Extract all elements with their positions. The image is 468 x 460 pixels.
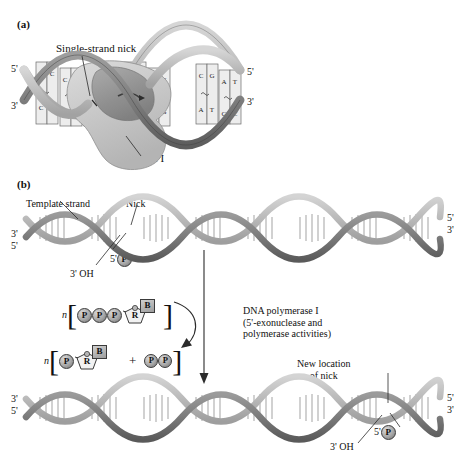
main-reaction-arrow-head	[200, 373, 209, 384]
top-5prime-text: 5'	[110, 253, 117, 264]
panel-b-bottom-helix	[0, 385, 468, 430]
new-nick-line-1: New location	[297, 358, 351, 370]
curved-arrow-head	[181, 338, 192, 348]
svg-text:T: T	[210, 106, 215, 114]
substrate-bracket-close: ]	[163, 298, 173, 331]
svg-text:A: A	[221, 78, 226, 86]
curved-conversion-arrow	[174, 302, 196, 346]
svg-text:C: C	[63, 76, 68, 84]
panel-b-tag: (b)	[17, 178, 30, 191]
figure-dna-polymerase-nick-translation: (a) Single-strand nick Pol I 5' 3' 5' 3'	[0, 0, 468, 460]
svg-text:G: G	[209, 72, 214, 80]
phosphate-icon-2: P	[92, 308, 107, 323]
bottom-strand-3prime-oh-label: 3' OH	[330, 441, 354, 453]
product-bracket-open: [	[49, 344, 59, 377]
phosphate-icon-3: P	[107, 308, 122, 323]
substrate-base-label: B	[140, 299, 155, 313]
svg-text:C: C	[199, 72, 204, 80]
svg-text:T: T	[233, 78, 238, 86]
substrate-expression: n[PPPRB]	[62, 300, 173, 330]
product-expression: n[PRB+PP]	[44, 346, 182, 376]
product-phosphate-icon: P	[59, 354, 74, 369]
product-base-label: B	[92, 345, 107, 359]
reaction-arrows	[178, 250, 258, 390]
panel-b-top-helix	[0, 205, 468, 250]
phosphate-icon-1: P	[77, 308, 92, 323]
panel-a-illustration: GC CG CG TA GC AT AT TA AT CG CG AT AT G…	[0, 0, 270, 180]
substrate-bracket-open: [	[67, 298, 77, 331]
plus-sign: +	[129, 353, 136, 368]
svg-text:A: A	[198, 106, 203, 114]
top-strand-3prime-oh-label: 3' OH	[70, 268, 94, 280]
pyrophosphate-icon-1: P	[144, 354, 158, 368]
pyrophosphate-icon-2: P	[158, 354, 172, 368]
